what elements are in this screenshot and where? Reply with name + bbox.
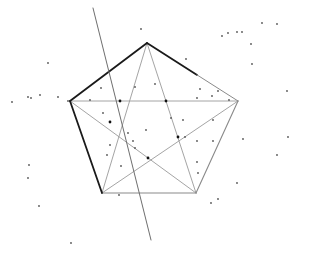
scatter-point — [182, 119, 184, 121]
scatter-point — [184, 136, 186, 138]
scatter-point — [67, 100, 69, 102]
scatter-point — [134, 147, 136, 149]
pentagram — [70, 43, 238, 193]
scatter-point — [212, 119, 214, 121]
scatter-point — [236, 182, 238, 184]
scatter-point — [38, 205, 40, 207]
pentagon-edge — [147, 43, 197, 75]
scatter-point — [57, 96, 59, 98]
scatter-point — [196, 97, 198, 99]
geometry-diagram — [0, 0, 311, 255]
intersection-point — [119, 100, 122, 103]
scatter-point — [236, 31, 238, 33]
scatter-point — [127, 132, 129, 134]
scatter-point — [242, 138, 244, 140]
scatter-point — [106, 154, 108, 156]
scatter-point — [276, 154, 278, 156]
scatter-point — [196, 161, 198, 163]
star-edge — [102, 43, 147, 193]
scatter-point — [11, 101, 13, 103]
scatter-point — [70, 242, 72, 244]
intersection-point — [177, 136, 180, 139]
scatter-point — [199, 88, 201, 90]
scatter-point — [241, 31, 243, 33]
scatter-point — [286, 90, 288, 92]
pentagon-edge — [197, 75, 238, 101]
scatter-point — [251, 63, 253, 65]
scatter-points — [11, 22, 289, 244]
scatter-point — [132, 140, 134, 142]
scatter-point — [140, 28, 142, 30]
scatter-point — [30, 97, 32, 99]
scatter-point — [27, 96, 29, 98]
scatter-point — [118, 194, 120, 196]
scatter-point — [28, 164, 30, 166]
scatter-point — [210, 202, 212, 204]
scatter-point — [197, 172, 199, 174]
scatter-point — [221, 35, 223, 37]
scatter-point — [212, 140, 214, 142]
scatter-point — [89, 99, 91, 101]
scatter-point — [196, 140, 198, 142]
pentagon-edge — [70, 101, 102, 193]
scatter-point — [102, 112, 104, 114]
scatter-point — [170, 117, 172, 119]
scatter-point — [287, 136, 289, 138]
scatter-point — [250, 43, 252, 45]
scatter-point — [217, 90, 219, 92]
star-edge — [70, 101, 196, 193]
scatter-point — [228, 99, 230, 101]
scatter-point — [227, 32, 229, 34]
scatter-point — [134, 86, 136, 88]
scatter-point — [27, 177, 29, 179]
scatter-point — [100, 87, 102, 89]
scatter-point — [145, 129, 147, 131]
scatter-point — [211, 95, 213, 97]
scatter-point — [39, 94, 41, 96]
scatter-point — [47, 62, 49, 64]
scatter-point — [276, 23, 278, 25]
intersection-point — [165, 100, 168, 103]
scatter-point — [261, 22, 263, 24]
intersection-point — [147, 157, 150, 160]
scatter-point — [154, 83, 156, 85]
scatter-point — [185, 58, 187, 60]
intersection-point — [109, 121, 112, 124]
scatter-point — [120, 165, 122, 167]
scatter-point — [109, 144, 111, 146]
scatter-point — [217, 198, 219, 200]
